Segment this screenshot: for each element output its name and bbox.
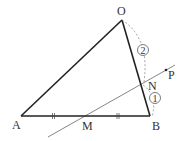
- label-A: A: [12, 118, 21, 132]
- label-B: B: [152, 119, 160, 133]
- side-OA: [21, 20, 122, 116]
- label-M: M: [82, 119, 93, 133]
- label-N: N: [148, 79, 157, 93]
- ratio-label-1: 1: [150, 93, 161, 104]
- label-P: P: [168, 68, 175, 82]
- point-P-dot: [165, 69, 168, 72]
- side-OB: [122, 20, 150, 116]
- svg-text:1: 1: [153, 93, 158, 104]
- label-O: O: [117, 4, 126, 18]
- ratio-label-2: 2: [138, 45, 149, 56]
- svg-text:2: 2: [141, 45, 146, 56]
- geometry-diagram: 2 1 O A B M N P: [0, 0, 185, 141]
